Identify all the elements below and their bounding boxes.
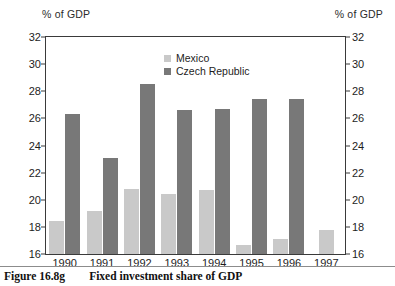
y-axis-tick-label-right: 30 bbox=[352, 59, 374, 70]
y-axis-tickmark-right bbox=[346, 64, 350, 65]
bar-group bbox=[270, 37, 307, 254]
y-axis-tickmark-right bbox=[346, 199, 350, 200]
figure-caption: Figure 16.8g Fixed investment share of G… bbox=[4, 270, 242, 282]
bar-mexico-1996 bbox=[273, 239, 288, 254]
bar-czech-republic-1991 bbox=[103, 158, 118, 254]
legend-label: Mexico bbox=[176, 53, 209, 64]
caption-divider bbox=[0, 266, 395, 267]
bar-czech-republic-1996 bbox=[289, 99, 304, 254]
y-axis-right-ticks: 161820222426283032 bbox=[352, 36, 378, 255]
bar-czech-republic-1994 bbox=[215, 109, 230, 254]
bar-mexico-1993 bbox=[161, 194, 176, 254]
y-axis-tickmark-right bbox=[346, 145, 350, 146]
legend-item: Czech Republic bbox=[164, 65, 250, 77]
x-axis-tick-label: 1990 bbox=[52, 257, 76, 269]
bar-mexico-1991 bbox=[87, 211, 102, 254]
bar-group bbox=[83, 37, 120, 254]
bar-mexico-1992 bbox=[124, 189, 139, 254]
x-axis-tick-label: 1991 bbox=[90, 257, 114, 269]
y-axis-tickmark-right bbox=[346, 172, 350, 173]
y-axis-tick-label-right: 32 bbox=[352, 32, 374, 43]
y-axis-tick-label-left: 32 bbox=[21, 32, 41, 43]
figure-caption-number: Figure 16.8g bbox=[4, 270, 65, 282]
bar-czech-republic-1993 bbox=[177, 110, 192, 254]
y-axis-tick-label-left: 28 bbox=[21, 86, 41, 97]
y-axis-tickmark-right bbox=[346, 91, 350, 92]
bar-czech-republic-1990 bbox=[65, 114, 80, 254]
bar-group bbox=[121, 37, 158, 254]
y-axis-tickmark-right bbox=[346, 118, 350, 119]
y-axis-unit-label-right: % of GDP bbox=[335, 8, 383, 20]
y-axis-right-tickmarks bbox=[346, 36, 350, 255]
y-axis-tick-label-right: 16 bbox=[352, 249, 374, 260]
x-axis-tick-label: 1997 bbox=[314, 257, 338, 269]
bar-mexico-1994 bbox=[199, 190, 214, 254]
bar-group bbox=[46, 37, 83, 254]
y-axis-tickmark-right bbox=[346, 37, 350, 38]
y-axis-tickmark-right bbox=[346, 254, 350, 255]
y-axis-tick-label-left: 22 bbox=[21, 167, 41, 178]
y-axis-tick-label-left: 24 bbox=[21, 140, 41, 151]
y-axis-unit-label-left: % of GDP bbox=[42, 8, 90, 20]
y-axis-tick-label-left: 20 bbox=[21, 194, 41, 205]
bar-czech-republic-1992 bbox=[140, 84, 155, 254]
x-axis-tick-label: 1992 bbox=[127, 257, 151, 269]
bar-mexico-1995 bbox=[236, 245, 251, 254]
bar-mexico-1990 bbox=[49, 221, 64, 254]
y-axis-tick-label-left: 16 bbox=[21, 249, 41, 260]
x-axis-tick-label: 1995 bbox=[239, 257, 263, 269]
y-axis-tick-label-right: 18 bbox=[352, 221, 374, 232]
x-axis-tick-label: 1994 bbox=[202, 257, 226, 269]
y-axis-tick-label-left: 30 bbox=[21, 59, 41, 70]
x-axis-tick-label: 1993 bbox=[165, 257, 189, 269]
y-axis-tick-label-right: 26 bbox=[352, 113, 374, 124]
legend-swatch-icon bbox=[164, 55, 171, 62]
bar-mexico-1997 bbox=[319, 230, 334, 254]
bar-czech-republic-1995 bbox=[252, 99, 267, 254]
bar-group bbox=[308, 37, 345, 254]
y-axis-left-ticks: 161820222426283032 bbox=[18, 36, 41, 255]
y-axis-tick-label-right: 22 bbox=[352, 167, 374, 178]
figure-container: % of GDP % of GDP 161820222426283032 161… bbox=[0, 0, 395, 286]
y-axis-tick-label-right: 28 bbox=[352, 86, 374, 97]
y-axis-tick-label-left: 18 bbox=[21, 221, 41, 232]
figure-caption-title: Fixed investment share of GDP bbox=[89, 270, 242, 282]
legend-swatch-icon bbox=[164, 68, 171, 75]
y-axis-tick-label-left: 26 bbox=[21, 113, 41, 124]
y-axis-tick-label-right: 20 bbox=[352, 194, 374, 205]
legend-item: Mexico bbox=[164, 52, 250, 64]
y-axis-tick-label-right: 24 bbox=[352, 140, 374, 151]
y-axis-tickmark-right bbox=[346, 226, 350, 227]
x-axis-tick-label: 1996 bbox=[277, 257, 301, 269]
chart-legend: MexicoCzech Republic bbox=[164, 52, 250, 78]
legend-label: Czech Republic bbox=[176, 66, 250, 77]
